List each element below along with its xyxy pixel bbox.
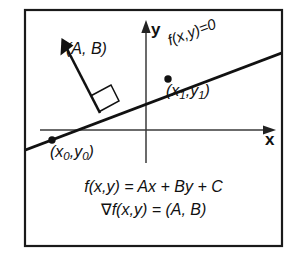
point-x1-y1-mid: ,y xyxy=(186,82,198,99)
y-axis-label: y xyxy=(151,21,160,38)
geometry-figure: f(x,y)=0 (A, B) (x1,y1) (x0,y0) y x f(x,… xyxy=(0,0,290,259)
point-x1-y1-open: (x xyxy=(166,82,179,99)
point-x0-y0-mid: ,y xyxy=(70,143,82,160)
point-x0-y0-label: (x0,y0) xyxy=(50,144,94,162)
point-x0-y0-open: (x xyxy=(50,143,63,160)
formula-gradient-text: f(x,y) = (A, B) xyxy=(112,201,207,218)
x-axis-label: x xyxy=(265,131,274,148)
point-x0-y0-close: ) xyxy=(89,143,94,160)
formula-gradient-definition: ∇f(x,y) = (A, B) xyxy=(26,198,281,221)
formula-block: f(x,y) = Ax + By + C ∇f(x,y) = (A, B) xyxy=(26,175,281,221)
point-x1-y1-close: ) xyxy=(205,82,210,99)
point-x1-y1-label: (x1,y1) xyxy=(166,83,210,101)
formula-function-definition: f(x,y) = Ax + By + C xyxy=(26,175,281,198)
nabla-icon: ∇ xyxy=(101,201,112,218)
gradient-vector-label: (A, B) xyxy=(66,41,107,57)
